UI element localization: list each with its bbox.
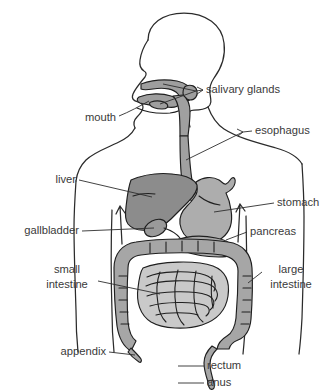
leader-esophagus bbox=[186, 131, 252, 160]
label-gallbladder: gallbladder bbox=[24, 224, 79, 236]
cystic-duct bbox=[164, 228, 180, 238]
label-salivary-glands: salivary glands bbox=[206, 83, 280, 95]
label-small-intestine-line2: intestine bbox=[46, 278, 88, 290]
label-rectum: rectum bbox=[207, 359, 241, 371]
diaphragm-arrow-right bbox=[236, 204, 245, 242]
torso-right-wall bbox=[299, 164, 304, 354]
label-large-intestine-line1: large bbox=[279, 263, 304, 275]
small-intestine-group bbox=[138, 262, 229, 328]
label-appendix: appendix bbox=[61, 345, 107, 357]
label-liver: liver bbox=[55, 173, 76, 185]
mouth-region-group bbox=[137, 80, 197, 136]
anatomy-illustration: salivary glands mouth esophagus liver st… bbox=[0, 0, 334, 392]
label-pancreas: pancreas bbox=[250, 225, 296, 237]
digestive-system-diagram: salivary glands mouth esophagus liver st… bbox=[0, 0, 334, 392]
label-anus: anus bbox=[207, 376, 232, 388]
leader-mouth bbox=[119, 101, 149, 116]
label-stomach: stomach bbox=[277, 196, 319, 208]
label-small-intestine-line1: small bbox=[54, 263, 80, 275]
label-mouth: mouth bbox=[85, 111, 116, 123]
leader-pancreas bbox=[226, 232, 247, 240]
neck-shoulder-left-outline bbox=[76, 128, 135, 181]
label-large-intestine-line2: intestine bbox=[270, 278, 312, 290]
label-esophagus: esophagus bbox=[255, 124, 310, 136]
labels-group: salivary glands mouth esophagus liver st… bbox=[24, 83, 319, 388]
diaphragm-arrow-left bbox=[116, 206, 125, 244]
